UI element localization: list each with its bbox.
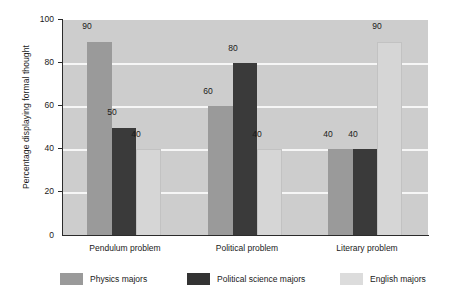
bar-value-political-physics: 60 bbox=[195, 87, 221, 96]
y-tick-label-20: 20 bbox=[28, 187, 54, 196]
legend-label-polisci: Political science majors bbox=[217, 274, 305, 284]
y-tick-mark-100 bbox=[58, 19, 63, 20]
bar-pendulum-english bbox=[136, 149, 161, 235]
x-axis-line bbox=[62, 235, 429, 236]
bar-political-physics bbox=[208, 106, 233, 235]
y-tick-label-0: 0 bbox=[28, 231, 54, 240]
x-category-label-political: Political problem bbox=[192, 243, 302, 253]
legend-label-physics: Physics majors bbox=[90, 274, 147, 284]
bar-political-english bbox=[257, 149, 282, 235]
chart-legend: Physics majors Political science majors … bbox=[0, 271, 451, 293]
bar-literary-physics bbox=[328, 149, 353, 235]
bar-value-pendulum-english: 40 bbox=[123, 130, 149, 139]
y-tick-mark-60 bbox=[58, 105, 63, 106]
y-tick-mark-40 bbox=[58, 148, 63, 149]
x-category-label-pendulum: Pendulum problem bbox=[70, 243, 180, 253]
x-category-label-literary: Literary problem bbox=[312, 243, 422, 253]
y-tick-mark-80 bbox=[58, 62, 63, 63]
bar-literary-english bbox=[377, 42, 402, 236]
y-tick-label-80: 80 bbox=[28, 58, 54, 67]
legend-item-physics: Physics majors bbox=[60, 271, 147, 287]
bar-value-political-polisci: 80 bbox=[220, 44, 246, 53]
legend-item-english: English majors bbox=[340, 271, 426, 287]
bar-chart: Percentage displaying formal thought 90 … bbox=[0, 0, 451, 304]
bar-pendulum-physics bbox=[87, 42, 112, 236]
bar-value-political-english: 40 bbox=[244, 130, 270, 139]
y-tick-label-40: 40 bbox=[28, 144, 54, 153]
bar-pendulum-polisci bbox=[112, 128, 136, 236]
bar-value-pendulum-polisci: 50 bbox=[99, 108, 125, 117]
legend-swatch-english-icon bbox=[340, 273, 363, 285]
legend-swatch-polisci-icon bbox=[187, 273, 210, 285]
legend-label-english: English majors bbox=[370, 274, 426, 284]
bar-value-literary-english: 90 bbox=[364, 22, 390, 31]
y-tick-label-100: 100 bbox=[28, 15, 54, 24]
bar-value-literary-physics: 40 bbox=[315, 130, 341, 139]
y-axis-line bbox=[62, 19, 63, 236]
bar-value-pendulum-physics: 90 bbox=[74, 22, 100, 31]
bar-political-polisci bbox=[233, 63, 257, 235]
legend-item-polisci: Political science majors bbox=[187, 271, 305, 287]
bar-value-literary-polisci: 40 bbox=[340, 130, 366, 139]
y-tick-mark-20 bbox=[58, 191, 63, 192]
legend-swatch-physics-icon bbox=[60, 273, 83, 285]
y-tick-label-60: 60 bbox=[28, 101, 54, 110]
bar-literary-polisci bbox=[353, 149, 377, 235]
